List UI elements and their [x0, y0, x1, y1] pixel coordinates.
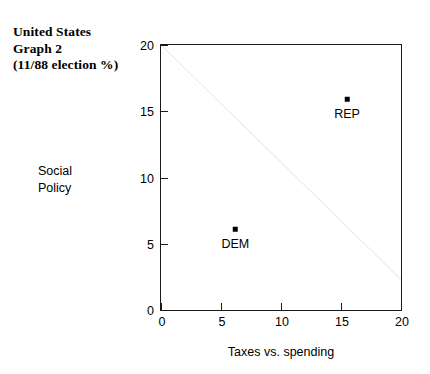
chart-title-line-2: Graph 2 [13, 41, 118, 58]
y-axis-label-line-2: Policy [38, 180, 72, 197]
y-tick-label-10: 10 [140, 172, 154, 186]
data-point-rep [345, 97, 350, 102]
x-tick-label-5: 5 [219, 315, 226, 329]
x-tick-label-20: 20 [395, 315, 409, 329]
y-tick-label-0: 0 [147, 304, 154, 318]
data-point-label-rep: REP [334, 107, 360, 121]
x-axis-label: Taxes vs. spending [160, 345, 402, 359]
x-tick-label-0: 0 [159, 315, 166, 329]
data-point-label-dem: DEM [222, 237, 250, 251]
y-axis-label: Social Policy [38, 163, 72, 197]
trend-line-segment [161, 45, 401, 280]
plot-area: 0 5 10 15 20 0 5 10 15 20 [160, 44, 402, 311]
chart-title-line-3: (11/88 election %) [13, 57, 118, 74]
chart-title-line-1: United States [13, 24, 118, 41]
y-tick-0: 0 [161, 310, 168, 311]
y-tick-label-5: 5 [147, 238, 154, 252]
y-axis-label-line-1: Social [38, 163, 72, 180]
x-tick-label-15: 15 [335, 315, 349, 329]
data-point-dem [233, 227, 238, 232]
y-tick-label-20: 20 [140, 39, 154, 53]
trend-line [161, 45, 401, 310]
x-tick-20: 20 [401, 303, 402, 310]
chart-title: United States Graph 2 (11/88 election %) [13, 24, 118, 74]
chart-figure: United States Graph 2 (11/88 election %)… [0, 0, 430, 374]
x-tick-label-10: 10 [275, 315, 289, 329]
y-tick-label-15: 15 [140, 105, 154, 119]
